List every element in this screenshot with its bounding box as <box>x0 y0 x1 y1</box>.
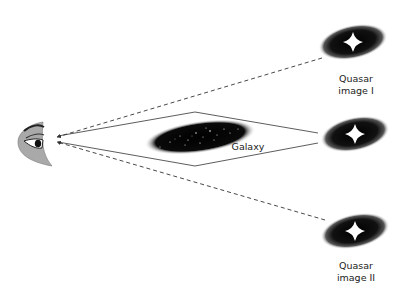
galaxy <box>142 113 257 160</box>
label-quasar-image-1: Quasar image I <box>326 73 386 97</box>
quasar-image-1 <box>315 18 391 66</box>
quasar-source <box>317 110 393 158</box>
eye-icon <box>18 122 52 166</box>
label-line: Quasar <box>326 73 386 85</box>
label-line: image II <box>326 272 386 284</box>
label-line: Quasar <box>326 260 386 272</box>
quasar-image-2 <box>317 207 393 255</box>
label-line: image I <box>326 85 386 97</box>
label-quasar-image-2: Quasar image II <box>326 260 386 284</box>
lensing-diagram <box>0 0 404 301</box>
label-galaxy: Galaxy <box>228 141 268 153</box>
